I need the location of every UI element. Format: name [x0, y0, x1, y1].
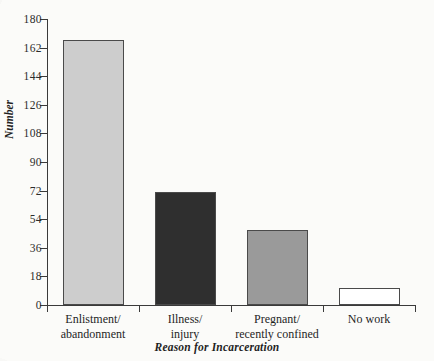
y-tick-label: 90 — [30, 156, 42, 168]
bar-chart-figure: 01836547290108126144162180 Number Reason… — [0, 0, 434, 361]
y-tick-label: 180 — [24, 13, 42, 25]
y-tick-label: 72 — [30, 185, 42, 197]
x-tick-mark — [231, 305, 232, 312]
y-axis-title: Number — [3, 100, 15, 139]
y-tick-label: 126 — [24, 99, 42, 111]
x-tick-mark — [47, 305, 48, 312]
x-axis-title: Reason for Incarceration — [0, 341, 434, 353]
x-tick-label: No work — [323, 312, 415, 327]
y-tick-label: 54 — [30, 213, 42, 225]
bar — [155, 192, 216, 305]
x-tick-label-line: No work — [323, 312, 415, 327]
x-tick-label-line: Enlistment/ — [47, 312, 139, 327]
x-tick-label: Illness/injury — [139, 312, 231, 341]
x-tick-label: Pregnant/recently confined — [231, 312, 323, 341]
x-tick-label-line: Pregnant/ — [231, 312, 323, 327]
y-tick-label: 0 — [36, 299, 42, 311]
x-tick-label: Enlistment/abandonment — [47, 312, 139, 341]
y-tick-label: 162 — [24, 42, 42, 54]
x-tick-label-line: Illness/ — [139, 312, 231, 327]
bar — [339, 288, 400, 305]
x-tick-label-line: injury — [139, 327, 231, 342]
x-tick-label-line: recently confined — [231, 327, 323, 342]
plot-area: 01836547290108126144162180 — [47, 19, 415, 305]
y-tick-label: 18 — [30, 270, 42, 282]
y-tick-label: 108 — [24, 127, 42, 139]
x-tick-mark — [323, 305, 324, 312]
x-tick-mark — [139, 305, 140, 312]
bar — [247, 230, 308, 305]
y-tick-label: 144 — [24, 70, 42, 82]
bar — [63, 40, 124, 305]
x-tick-mark — [415, 305, 416, 312]
x-tick-label-line: abandonment — [47, 327, 139, 342]
y-tick-label: 36 — [30, 242, 42, 254]
